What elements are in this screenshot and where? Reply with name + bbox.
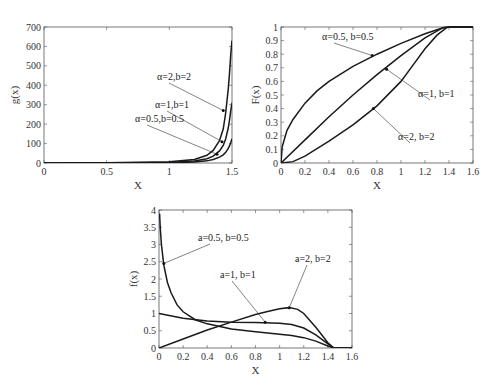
y-tick-label: 1.5: [144, 291, 157, 302]
annotation-label: a=2, b=2: [295, 253, 331, 264]
series-line: [159, 314, 352, 349]
y-tick-label: 1: [273, 22, 278, 33]
x-tick-label: 0.5: [100, 166, 113, 177]
x-tick-label: 1: [399, 166, 404, 177]
x-axis-label: X: [373, 179, 381, 191]
y-tick-label: 0.4: [266, 103, 279, 114]
x-tick-label: 1.2: [298, 351, 311, 362]
annotation-label: α=2, b=2: [398, 131, 435, 142]
figure-canvas: 00.511.50100200300400500600700Xg(x)α=2,b…: [0, 0, 497, 384]
y-axis-label: F(x): [249, 85, 262, 104]
series-line: [160, 213, 352, 348]
plot-f: 00.20.40.60.811.21.41.600.511.522.533.54…: [127, 205, 358, 377]
x-tick-label: 0: [279, 166, 284, 177]
x-tick-label: 1.4: [443, 166, 456, 177]
series-line: [44, 41, 232, 163]
annotation-label: α=1, b=1: [418, 88, 455, 99]
x-tick-label: 1.2: [419, 166, 432, 177]
annotation-arrow-icon: [220, 140, 223, 143]
y-tick-label: 500: [26, 60, 41, 71]
y-tick-label: 0: [151, 343, 156, 354]
x-tick-label: 1.6: [467, 166, 480, 177]
plot-frame: [44, 27, 232, 163]
x-tick-label: 1.4: [322, 351, 335, 362]
x-tick-label: 0: [157, 351, 162, 362]
annotation-label: α=0.5,b=0.5: [135, 113, 184, 124]
x-tick-label: 1.6: [346, 351, 359, 362]
annotation-arrow-icon: [215, 153, 218, 156]
x-tick-label: 1.5: [226, 166, 239, 177]
annotation-arrow-icon: [371, 54, 374, 57]
x-tick-label: 0.8: [371, 166, 384, 177]
y-axis-label: g(x): [8, 86, 21, 105]
y-tick-label: 100: [26, 138, 41, 149]
y-axis-label: f(x): [127, 270, 140, 287]
y-tick-label: 600: [26, 41, 41, 52]
annotation-arrow-icon: [264, 321, 267, 324]
annotation-label: a=0.5, b=0.5: [198, 232, 249, 243]
x-tick-label: 0.6: [347, 166, 360, 177]
annotation-leader: [147, 125, 217, 154]
y-tick-label: 2.5: [144, 256, 157, 267]
y-tick-label: 4: [151, 205, 156, 216]
y-tick-label: 0: [273, 158, 278, 169]
plot-g: 00.511.50100200300400500600700Xg(x)α=2,b…: [8, 22, 238, 192]
series-line: [44, 103, 232, 163]
x-tick-label: 0.2: [299, 166, 312, 177]
annotation-label: α=1,b=1: [155, 99, 189, 110]
y-tick-label: 0.8: [266, 49, 279, 60]
y-tick-label: 0.5: [266, 90, 279, 101]
y-tick-label: 0.2: [266, 130, 279, 141]
y-tick-label: 0.1: [266, 144, 279, 155]
x-axis-label: X: [252, 364, 260, 376]
annotation-label: α=0.5, b=0.5: [322, 31, 374, 42]
y-tick-label: 0.9: [266, 35, 279, 46]
y-tick-label: 0.6: [266, 76, 279, 87]
y-tick-label: 2: [151, 274, 156, 285]
x-tick-label: 0.6: [225, 351, 238, 362]
x-tick-label: 0.2: [177, 351, 190, 362]
x-tick-label: 0.4: [201, 351, 214, 362]
series-line: [159, 308, 352, 348]
y-tick-label: 0.3: [266, 117, 279, 128]
annotation-arrow-icon: [385, 68, 388, 71]
y-tick-label: 0: [36, 158, 41, 169]
y-tick-label: 1: [151, 308, 156, 319]
annotation-arrow-icon: [162, 262, 165, 265]
y-tick-label: 400: [26, 80, 41, 91]
x-tick-label: 0: [42, 166, 47, 177]
annotation-arrow-icon: [372, 107, 375, 110]
annotation-label: α=2,b=2: [157, 71, 191, 82]
x-tick-label: 0.8: [249, 351, 262, 362]
annotation-arrow-icon: [222, 109, 225, 112]
y-tick-label: 200: [26, 119, 41, 130]
y-tick-label: 0.7: [266, 62, 279, 73]
x-tick-label: 0.4: [323, 166, 336, 177]
plot-F: 00.20.40.60.811.21.41.600.10.20.30.40.50…: [249, 22, 479, 192]
annotation-leader: [334, 43, 372, 56]
y-tick-label: 700: [26, 22, 41, 33]
y-tick-label: 3: [151, 239, 156, 250]
x-axis-label: X: [134, 179, 142, 191]
x-tick-label: 1: [167, 166, 172, 177]
y-tick-label: 3.5: [144, 222, 157, 233]
annotation-arrow-icon: [288, 306, 291, 309]
annotation-leader: [289, 265, 307, 308]
y-tick-label: 300: [26, 99, 41, 110]
y-tick-label: 0.5: [144, 325, 157, 336]
annotation-leader: [164, 244, 210, 263]
annotation-label: a=1, b=1: [220, 269, 256, 280]
x-tick-label: 1: [277, 351, 282, 362]
